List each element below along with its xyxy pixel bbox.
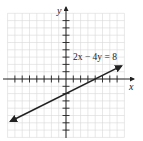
x-axis-label: x bbox=[128, 81, 134, 92]
axes bbox=[3, 7, 134, 138]
equation-label: 2x − 4y = 8 bbox=[73, 52, 117, 62]
y-axis-label: y bbox=[56, 5, 62, 16]
coordinate-plane: x y 2x − 4y = 8 bbox=[0, 0, 143, 141]
